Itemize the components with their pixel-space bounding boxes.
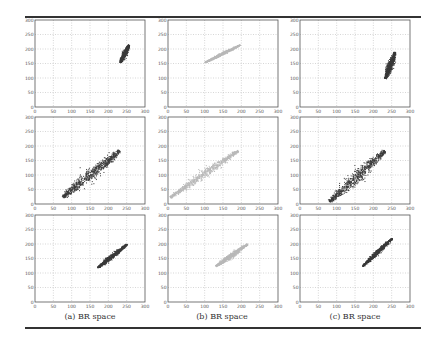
svg-text:300: 300: [25, 213, 34, 218]
svg-text:0: 0: [167, 304, 170, 309]
svg-text:200: 200: [25, 47, 34, 52]
svg-text:150: 150: [290, 61, 299, 66]
scatter-panel-row2-col1: 050100150200250300050100150200250300: [15, 113, 159, 214]
svg-text:250: 250: [158, 129, 167, 134]
svg-text:200: 200: [237, 304, 246, 309]
svg-text:0: 0: [164, 202, 167, 207]
svg-text:150: 150: [351, 304, 360, 309]
svg-text:150: 150: [158, 158, 167, 163]
svg-text:100: 100: [200, 304, 209, 309]
svg-text:50: 50: [161, 187, 167, 192]
svg-text:100: 100: [290, 76, 299, 81]
svg-text:200: 200: [25, 242, 34, 247]
svg-text:150: 150: [86, 304, 95, 309]
svg-text:300: 300: [25, 115, 34, 120]
scatter-points: [120, 44, 131, 63]
svg-text:250: 250: [122, 304, 131, 309]
svg-text:50: 50: [293, 187, 299, 192]
svg-text:150: 150: [25, 256, 34, 261]
scatter-points: [384, 52, 396, 79]
scatter-points: [205, 45, 241, 64]
scatter-panel-row3-col3: 050100150200250300050100150200250300: [280, 211, 424, 312]
svg-text:0: 0: [164, 300, 167, 305]
svg-text:0: 0: [296, 105, 299, 110]
svg-text:100: 100: [25, 271, 34, 276]
scatter-points: [215, 243, 248, 267]
svg-text:50: 50: [293, 285, 299, 290]
svg-text:50: 50: [315, 304, 321, 309]
svg-text:300: 300: [158, 18, 167, 23]
svg-text:200: 200: [290, 242, 299, 247]
svg-text:300: 300: [158, 115, 167, 120]
svg-text:200: 200: [290, 47, 299, 52]
svg-text:200: 200: [158, 242, 167, 247]
svg-text:250: 250: [290, 32, 299, 37]
scatter-points: [97, 244, 127, 268]
svg-text:0: 0: [296, 300, 299, 305]
svg-text:0: 0: [296, 202, 299, 207]
scatter-panel-row3-col2: 050100150200250300050100150200250300: [148, 211, 292, 312]
svg-text:50: 50: [50, 304, 56, 309]
scatter-panel-row2-col3: 050100150200250300050100150200250300: [280, 113, 424, 214]
svg-text:250: 250: [158, 227, 167, 232]
caption-c: (c) BR space: [285, 312, 425, 321]
svg-text:0: 0: [299, 304, 302, 309]
svg-text:300: 300: [25, 18, 34, 23]
svg-text:50: 50: [28, 285, 34, 290]
svg-text:300: 300: [290, 213, 299, 218]
caption-a: (a) BR space: [20, 312, 160, 321]
svg-text:100: 100: [67, 304, 76, 309]
svg-text:0: 0: [164, 105, 167, 110]
svg-text:300: 300: [158, 213, 167, 218]
svg-text:150: 150: [219, 304, 228, 309]
svg-text:100: 100: [158, 271, 167, 276]
svg-text:100: 100: [25, 76, 34, 81]
svg-text:200: 200: [104, 304, 113, 309]
scatter-points: [362, 238, 393, 267]
svg-text:150: 150: [158, 256, 167, 261]
scatter-panel-row3-col1: 050100150200250300050100150200250300: [15, 211, 159, 312]
svg-text:50: 50: [183, 304, 189, 309]
svg-text:250: 250: [290, 129, 299, 134]
svg-text:100: 100: [332, 304, 341, 309]
svg-text:50: 50: [161, 285, 167, 290]
scatter-points: [169, 150, 239, 199]
svg-text:50: 50: [28, 90, 34, 95]
svg-text:50: 50: [28, 187, 34, 192]
svg-text:200: 200: [158, 144, 167, 149]
svg-text:250: 250: [25, 227, 34, 232]
svg-text:100: 100: [25, 173, 34, 178]
svg-text:200: 200: [158, 47, 167, 52]
svg-text:250: 250: [25, 32, 34, 37]
svg-text:250: 250: [158, 32, 167, 37]
svg-text:150: 150: [290, 158, 299, 163]
bottom-rule: [25, 327, 421, 329]
svg-text:0: 0: [31, 202, 34, 207]
scatter-points: [62, 150, 121, 199]
scatter-panel-row2-col2: 050100150200250300050100150200250300: [148, 113, 292, 214]
svg-text:150: 150: [158, 61, 167, 66]
svg-text:250: 250: [290, 227, 299, 232]
scatter-panel-row1-col3: 050100150200250300050100150200250300: [280, 16, 424, 117]
svg-text:250: 250: [255, 304, 264, 309]
svg-text:150: 150: [25, 61, 34, 66]
svg-text:200: 200: [290, 144, 299, 149]
svg-text:100: 100: [290, 271, 299, 276]
svg-text:300: 300: [290, 18, 299, 23]
svg-text:300: 300: [290, 115, 299, 120]
svg-text:250: 250: [387, 304, 396, 309]
svg-text:50: 50: [293, 90, 299, 95]
svg-text:300: 300: [406, 304, 415, 309]
svg-text:0: 0: [34, 304, 37, 309]
svg-text:100: 100: [290, 173, 299, 178]
svg-text:150: 150: [290, 256, 299, 261]
caption-b: (b) BR space: [152, 312, 292, 321]
svg-text:250: 250: [25, 129, 34, 134]
svg-text:50: 50: [161, 90, 167, 95]
svg-text:0: 0: [31, 105, 34, 110]
scatter-panel-row1-col2: 050100150200250300050100150200250300: [148, 16, 292, 117]
svg-text:200: 200: [369, 304, 378, 309]
svg-text:100: 100: [158, 76, 167, 81]
svg-text:200: 200: [25, 144, 34, 149]
scatter-panel-row1-col1: 050100150200250300050100150200250300: [15, 16, 159, 117]
